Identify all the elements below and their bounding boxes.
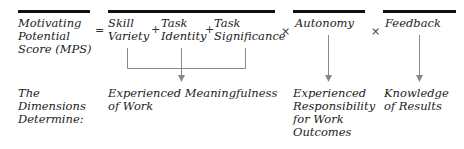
- knowledge-outcome: Knowledge of Results: [384, 87, 449, 113]
- row-label-line-3: Determine:: [18, 113, 86, 126]
- arrow-head-knowledge: [416, 75, 423, 82]
- meaningfulness-outcome: Experienced Meaningfulness of Work: [108, 87, 277, 113]
- knowledge-line-2: of Results: [384, 100, 449, 113]
- arrow-head-responsibility: [325, 75, 332, 82]
- dimensions-determine-label: The Dimensions Determine:: [18, 87, 86, 126]
- responsibility-outcome: Experienced Responsibility for Work Outc…: [293, 87, 375, 139]
- meaningfulness-line-2: of Work: [108, 100, 277, 113]
- connector-lines: [0, 0, 464, 149]
- arrow-head-meaningfulness: [178, 75, 185, 82]
- responsibility-line-4: Outcomes: [293, 126, 375, 139]
